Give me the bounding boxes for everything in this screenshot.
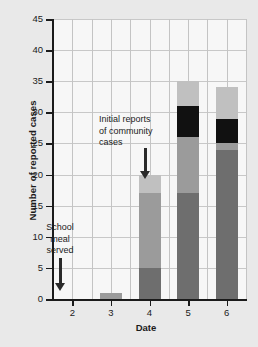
bar-segment-dark-gray [139,268,161,299]
x-tick-mark [188,300,190,306]
x-tick-mark [150,300,152,306]
y-tick-mark [46,299,53,301]
y-tick-mark [46,206,53,208]
y-tick-mark [46,19,53,21]
x-tick-mark [227,300,229,306]
y-tick-mark [46,112,53,114]
bar-segment-mid-gray [216,143,238,149]
down-arrow-icon-school-meal [55,258,65,292]
y-tick-label: 20 [13,169,43,180]
x-tick-label: 2 [60,307,84,318]
x-tick-label: 5 [176,307,200,318]
x-tick-label: 3 [99,307,123,318]
y-tick-label: 35 [13,75,43,86]
bar-segment-black [216,119,238,144]
y-tick-mark [46,268,53,270]
x-tick-mark [72,300,74,306]
bar-segment-mid-gray [139,193,161,268]
y-tick-label: 45 [13,13,43,24]
gridline-vertical [246,19,247,299]
y-tick-label: 40 [13,44,43,55]
chart-figure: Number of reported cases Date 0510152025… [0,0,258,347]
bar-stack [216,19,238,299]
bar-stack [100,19,122,299]
gridline-vertical [92,19,93,299]
y-axis-line [52,19,54,300]
y-tick-mark [46,143,53,145]
bar-segment-light-gray [216,87,238,118]
bar-segment-dark-gray [177,193,199,299]
y-tick-label: 0 [13,293,43,304]
annotation-community-cases: Initial reports of community cases [99,114,181,149]
y-tick-label: 15 [13,200,43,211]
x-tick-label: 6 [215,307,239,318]
bar-segment-dark-gray [216,150,238,299]
bar-stack [61,19,83,299]
y-tick-label: 25 [13,137,43,148]
gridline-vertical [207,19,208,299]
y-axis-title: Number of reported cases [27,76,38,246]
bar-stack [177,19,199,299]
x-axis-title: Date [46,322,246,333]
x-tick-label: 4 [138,307,162,318]
y-tick-mark [46,175,53,177]
annotation-school-meal: School meal served [36,222,84,257]
down-arrow-icon-community-cases [140,148,150,182]
gridline-vertical [130,19,131,299]
bar-segment-light-gray [177,81,199,106]
y-tick-label: 5 [13,262,43,273]
y-tick-mark [46,81,53,83]
gridline-vertical [169,19,170,299]
y-tick-label: 30 [13,106,43,117]
y-tick-mark [46,50,53,52]
x-tick-mark [111,300,113,306]
